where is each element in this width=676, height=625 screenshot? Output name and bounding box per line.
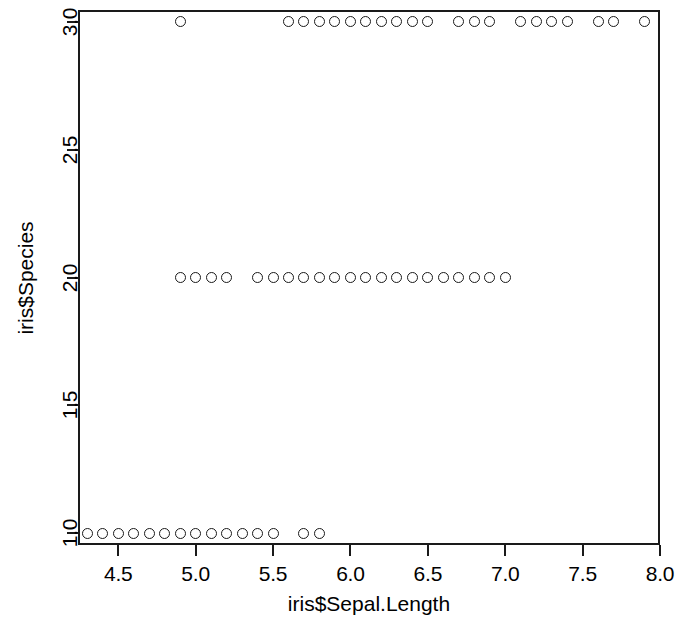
scatter-plot-figure: 4.55.05.56.06.57.07.58.0 1.01.52.02.53.0…: [0, 0, 676, 625]
x-tick-label: 6.5: [414, 562, 443, 586]
x-tick-mark: [195, 545, 197, 556]
x-tick-label: 7.5: [568, 562, 597, 586]
x-axis-title: iris$Sepal.Length: [288, 592, 450, 616]
y-tick-label: 2.0: [58, 263, 82, 292]
x-tick-mark: [349, 545, 351, 556]
x-tick-mark: [582, 545, 584, 556]
x-tick-label: 4.5: [104, 562, 133, 586]
x-tick-mark: [427, 545, 429, 556]
x-tick-mark: [117, 545, 119, 556]
y-tick-label: 3.0: [58, 7, 82, 36]
x-tick-label: 6.0: [336, 562, 365, 586]
x-tick-mark: [504, 545, 506, 556]
x-tick-label: 5.0: [181, 562, 210, 586]
y-tick-label: 2.5: [58, 135, 82, 164]
x-tick-label: 5.5: [259, 562, 288, 586]
y-axis-title: iris$Species: [14, 221, 38, 334]
y-tick-label: 1.5: [58, 391, 82, 420]
plot-frame: [78, 10, 660, 545]
y-tick-label: 1.0: [58, 519, 82, 548]
x-tick-label: 7.0: [491, 562, 520, 586]
x-tick-mark: [272, 545, 274, 556]
x-tick-label: 8.0: [646, 562, 675, 586]
x-tick-mark: [659, 545, 661, 556]
